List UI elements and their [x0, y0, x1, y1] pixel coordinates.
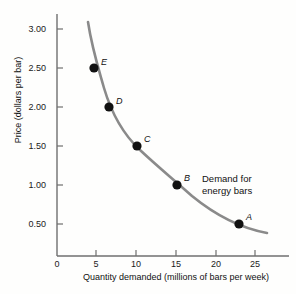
- y-axis-ticks: [57, 29, 63, 224]
- point-label-C: C: [144, 134, 151, 144]
- point-label-B: B: [184, 173, 190, 183]
- data-point-markers: [89, 63, 243, 228]
- demand-curve-annotation: Demand for energy bars: [202, 173, 252, 196]
- data-point-C: [132, 141, 141, 150]
- x-axis-ticks: [96, 250, 255, 256]
- point-label-D: D: [116, 96, 123, 106]
- x-tick-label-0: 0: [45, 259, 69, 269]
- data-point-A: [234, 219, 243, 228]
- x-tick-label-25: 25: [243, 259, 267, 269]
- x-tick-label-10: 10: [124, 259, 148, 269]
- y-tick-label-0-50: 0.50: [12, 219, 46, 229]
- x-tick-label-20: 20: [204, 259, 228, 269]
- annotation-line-1: Demand for: [202, 173, 252, 185]
- data-point-E: [89, 63, 98, 72]
- data-point-D: [104, 102, 113, 111]
- y-tick-label-1-00: 1.00: [12, 180, 46, 190]
- y-tick-label-2-00: 2.00: [12, 102, 46, 112]
- data-point-B: [172, 180, 181, 189]
- point-label-E: E: [101, 57, 107, 67]
- y-tick-label-1-50: 1.50: [12, 141, 46, 151]
- annotation-line-2: energy bars: [202, 185, 252, 197]
- demand-curve-figure: Price (dollars per bar) Quantity demande…: [0, 0, 296, 294]
- x-axis-title: Quantity demanded (millions of bars per …: [60, 272, 292, 282]
- x-tick-label-15: 15: [164, 259, 188, 269]
- y-tick-label-2-50: 2.50: [12, 63, 46, 73]
- x-tick-label-5: 5: [84, 259, 108, 269]
- point-label-A: A: [246, 212, 252, 222]
- y-tick-label-3-00: 3.00: [12, 24, 46, 34]
- demand-curve-line: [88, 22, 267, 233]
- axes: [57, 14, 289, 256]
